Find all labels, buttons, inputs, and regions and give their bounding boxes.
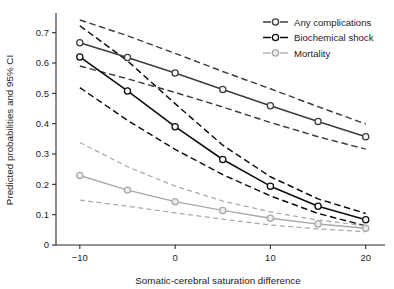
chart-figure: 00.10.20.30.40.50.60.7 −1001020 Predicte… xyxy=(0,0,394,289)
data-point-marker xyxy=(315,221,321,227)
legend-label: Biochemical shock xyxy=(294,32,374,43)
y-axis-title: Predicted probabilities and 95% CI xyxy=(4,55,15,205)
y-tick-label: 0.1 xyxy=(36,209,49,220)
x-tick-label: 10 xyxy=(265,252,276,263)
y-axis-ticks: 00.10.20.30.40.50.60.7 xyxy=(36,27,56,250)
data-point-marker xyxy=(267,183,273,189)
x-axis-ticks: −1001020 xyxy=(72,245,371,263)
x-tick-label: −10 xyxy=(72,252,88,263)
y-tick-label: 0.2 xyxy=(36,179,49,190)
y-tick-label: 0.6 xyxy=(36,57,49,68)
data-point-marker xyxy=(172,199,178,205)
data-point-marker xyxy=(77,172,83,178)
data-point-marker xyxy=(267,215,273,221)
legend-marker xyxy=(272,34,278,40)
y-tick-label: 0.4 xyxy=(36,118,49,129)
data-point-marker xyxy=(315,118,321,124)
data-point-marker xyxy=(220,156,226,162)
legend-label: Any complications xyxy=(294,17,372,28)
data-point-marker xyxy=(220,86,226,92)
y-tick-label: 0.7 xyxy=(36,27,49,38)
data-point-marker xyxy=(220,207,226,213)
data-point-marker xyxy=(77,54,83,60)
legend-label: Mortality xyxy=(294,48,330,59)
x-tick-label: 0 xyxy=(172,252,177,263)
data-point-marker xyxy=(124,88,130,94)
data-point-marker xyxy=(363,217,369,223)
data-point-marker xyxy=(363,134,369,140)
data-point-marker xyxy=(172,70,178,76)
x-tick-label: 20 xyxy=(360,252,371,263)
y-tick-label: 0.5 xyxy=(36,88,49,99)
data-point-marker xyxy=(124,54,130,60)
data-point-marker xyxy=(124,187,130,193)
data-point-marker xyxy=(77,40,83,46)
legend-marker xyxy=(272,50,278,56)
legend-marker xyxy=(272,19,278,25)
y-tick-label: 0 xyxy=(44,239,49,250)
ci-lower-band xyxy=(80,66,366,149)
data-point-marker xyxy=(315,203,321,209)
legend: Any complicationsBiochemical shockMortal… xyxy=(263,17,374,59)
data-point-marker xyxy=(172,124,178,130)
ci-lower-band xyxy=(80,200,366,232)
series-markers xyxy=(77,40,369,232)
data-point-marker xyxy=(363,225,369,231)
x-axis-title: Somatic-cerebral saturation difference xyxy=(135,275,301,286)
y-tick-label: 0.3 xyxy=(36,148,49,159)
predicted-probability-line-chart: 00.10.20.30.40.50.60.7 −1001020 Predicte… xyxy=(0,0,394,289)
data-point-marker xyxy=(267,103,273,109)
